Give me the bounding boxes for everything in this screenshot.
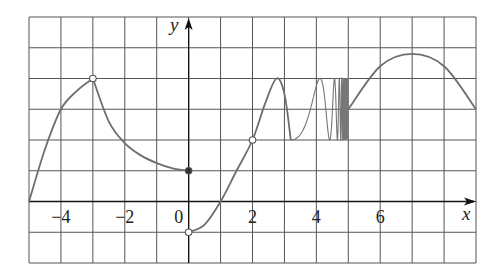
x-tick-label: 0 <box>174 207 183 227</box>
decreasing-arc-curve <box>93 79 189 171</box>
function-graph: −4−20246 x y <box>0 0 503 280</box>
closed-point-icon <box>185 168 191 174</box>
open-point-icon <box>90 75 97 82</box>
x-tick-label: −2 <box>115 207 134 227</box>
x-axis-label: x <box>461 203 471 224</box>
x-tick-label: 2 <box>248 207 257 227</box>
open-point-icon <box>249 137 256 144</box>
x-tick-label: −4 <box>51 207 70 227</box>
rising-from-zero-curve <box>189 78 291 232</box>
x-tick-label: 6 <box>376 207 385 227</box>
open-point-icon <box>185 229 192 236</box>
tick-labels: −4−20246 <box>51 207 384 227</box>
x-tick-label: 4 <box>312 207 321 227</box>
y-axis-label: y <box>168 14 179 35</box>
